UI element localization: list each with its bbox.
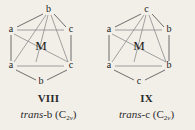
isomer-prefix: trans-: [21, 108, 47, 120]
octahedral-isomer-figure: b a c a c b M VIII trans-b (C2v): [0, 0, 195, 130]
point-group-subscript: 2v: [66, 114, 73, 122]
vertex-label-lower-left: a: [107, 59, 112, 70]
isomer-ligand: c: [145, 108, 150, 120]
vertex-label-upper-right: c: [69, 23, 74, 34]
octahedron-diagram-ix: c a b a b c M: [98, 0, 195, 92]
diagram-roman-numeral-ix: IX: [98, 92, 195, 105]
vertex-label-lower-left: a: [9, 59, 14, 70]
isomer-prefix: trans-: [119, 108, 145, 120]
vertex-label-lower-right: b: [167, 59, 172, 70]
diagram-roman-numeral-viii: VIII: [0, 92, 97, 105]
diagram-panel-ix: c a b a b c M IX trans-c (C2v): [98, 0, 195, 130]
central-metal-label: M: [35, 38, 47, 53]
vertex-label-lower-right: c: [69, 59, 74, 70]
point-group-symbol: C: [156, 108, 163, 120]
vertex-label-upper-left: a: [107, 23, 112, 34]
isomer-ligand: b: [47, 108, 53, 120]
central-metal-label: M: [133, 38, 145, 53]
diagram-caption-viii: trans-b (C2v): [0, 107, 97, 125]
close-paren: ): [170, 108, 174, 120]
vertex-label-top: b: [46, 3, 51, 14]
vertex-label-upper-left: a: [9, 23, 14, 34]
vertex-label-top: c: [144, 3, 149, 14]
diagram-caption-ix: trans-c (C2v): [98, 107, 195, 125]
vertex-label-bottom: b: [39, 75, 44, 86]
diagram-panel-viii: b a c a c b M VIII trans-b (C2v): [0, 0, 97, 130]
vertex-label-upper-right: b: [167, 23, 172, 34]
close-paren: ): [73, 108, 77, 120]
vertex-label-bottom: c: [137, 75, 142, 86]
octahedron-diagram-viii: b a c a c b M: [0, 0, 97, 92]
